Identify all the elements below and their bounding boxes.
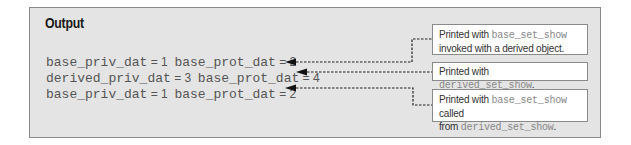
connector-1 xyxy=(296,39,432,62)
callout-text: from xyxy=(439,121,461,132)
callout-text: Printed with xyxy=(439,66,489,77)
callout-code: base_set_show xyxy=(491,30,566,41)
callout-3: Printed with base_set_show called from d… xyxy=(432,89,588,122)
callout-text: called xyxy=(439,108,464,119)
callout-2: Printed with derived_set_show. xyxy=(432,62,588,81)
arrowhead-icon xyxy=(285,59,296,66)
callout-1: Printed with base_set_show invoked with … xyxy=(432,24,588,55)
callout-text: Printed with xyxy=(439,29,491,40)
callout-text: . xyxy=(554,121,557,132)
callout-text: invoked with a derived object. xyxy=(439,43,564,54)
callout-code: derived_set_show xyxy=(461,122,554,133)
connector-3 xyxy=(296,88,432,105)
callout-text: Printed with xyxy=(439,94,491,105)
arrowhead-icon xyxy=(285,85,296,92)
callout-code: base_set_show xyxy=(491,95,566,106)
arrowhead-icon xyxy=(296,69,307,76)
